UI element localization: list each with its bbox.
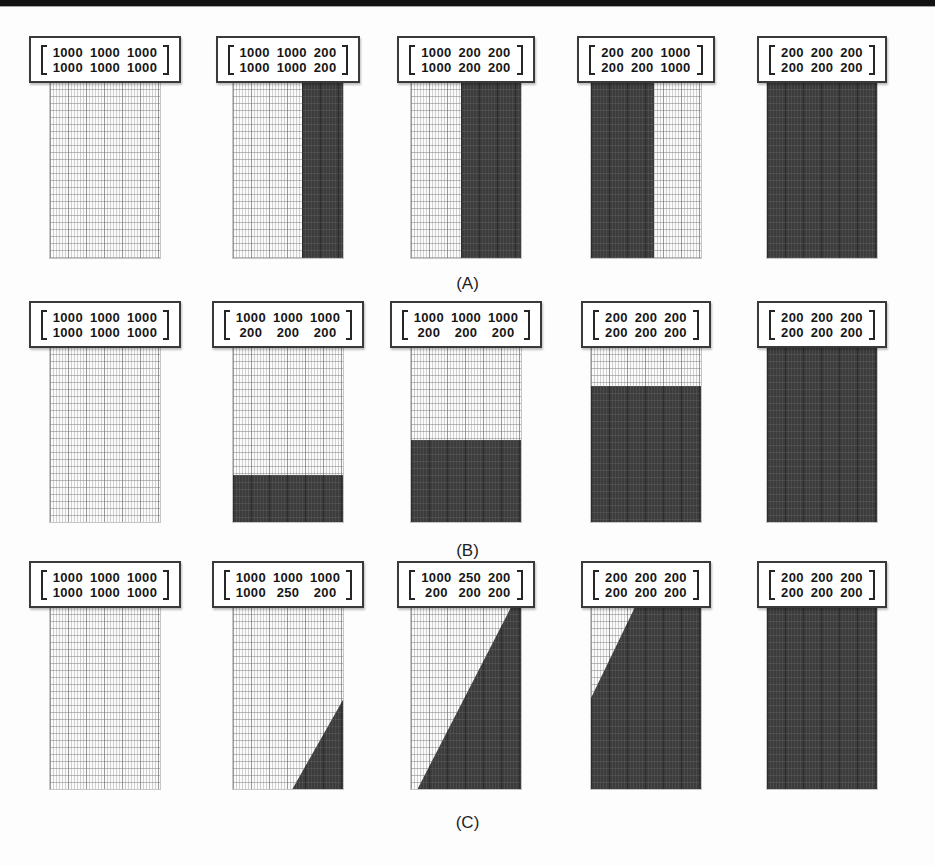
weight-matrix: 1000100010001000250200	[224, 570, 352, 600]
figure-panel: 100010001000100010001000	[20, 561, 190, 789]
matrix-values: 100010001000100010001000	[51, 45, 159, 75]
fabric-swatch	[233, 607, 343, 789]
bracket-right-icon	[697, 45, 703, 75]
matrix-cell: 200	[601, 45, 624, 60]
matrix-cell: 1000	[53, 45, 83, 60]
matrix-cell: 200	[811, 325, 834, 340]
matrix-values: 200200200200200200	[603, 310, 689, 340]
bracket-right-icon	[517, 45, 523, 75]
bracket-right-icon	[869, 45, 875, 75]
matrix-cell: 200	[635, 570, 658, 585]
bracket-left-icon	[409, 570, 415, 600]
matrix-cell: 200	[314, 45, 337, 60]
matrix-cell: 200	[458, 585, 481, 600]
matrix-cell: 200	[781, 45, 804, 60]
matrix-label-box: 200200200200200200	[581, 561, 711, 608]
matrix-cell: 250	[458, 570, 481, 585]
bracket-left-icon	[402, 310, 408, 340]
matrix-cell: 200	[811, 585, 834, 600]
bracket-left-icon	[589, 45, 595, 75]
matrix-label-box: 100010001000200200200	[390, 301, 542, 348]
bracket-left-icon	[224, 570, 230, 600]
dark-shade-region	[591, 82, 654, 258]
matrix-cell: 1000	[90, 310, 120, 325]
fabric-swatch	[767, 82, 877, 258]
figure-panel: 100010001000100010001000	[20, 301, 190, 522]
matrix-cell: 200	[488, 45, 511, 60]
matrix-cell: 1000	[127, 60, 157, 75]
matrix-label-box: 100010001000100010001000	[29, 561, 181, 608]
matrix-cell: 200	[840, 310, 863, 325]
matrix-cell: 200	[310, 325, 340, 340]
figure-panel: 1000250200200200200	[381, 561, 551, 789]
matrix-cell: 1000	[277, 60, 307, 75]
fabric-swatch	[591, 607, 701, 789]
matrix-cell: 1000	[421, 45, 451, 60]
matrix-cell: 200	[664, 310, 687, 325]
matrix-values: 20020010002002001000	[599, 45, 692, 75]
matrix-cell: 1000	[53, 60, 83, 75]
matrix-cell: 1000	[90, 325, 120, 340]
matrix-cell: 1000	[127, 585, 157, 600]
matrix-cell: 1000	[273, 310, 303, 325]
matrix-cell: 1000	[53, 585, 83, 600]
weight-matrix: 200200200200200200	[769, 570, 875, 600]
figure-panel: 200200200200200200	[561, 301, 731, 522]
matrix-cell: 200	[314, 60, 337, 75]
matrix-cell: 200	[488, 570, 511, 585]
matrix-cell: 1000	[127, 325, 157, 340]
matrix-cell: 1000	[451, 310, 481, 325]
weight-matrix: 100010001000200200200	[224, 310, 352, 340]
matrix-cell: 200	[310, 585, 340, 600]
matrix-cell: 200	[414, 325, 444, 340]
matrix-label-box: 100010001000100010001000	[29, 301, 181, 348]
bracket-right-icon	[524, 310, 530, 340]
matrix-values: 100010001000100010001000	[51, 310, 159, 340]
bracket-left-icon	[41, 45, 47, 75]
matrix-label-box: 20020010002002001000	[577, 36, 714, 83]
matrix-cell: 1000	[421, 570, 451, 585]
matrix-label-box: 1000250200200200200	[397, 561, 534, 608]
matrix-cell: 200	[840, 570, 863, 585]
figure-panel: 200200200200200200	[737, 561, 907, 789]
matrix-cell: 200	[840, 60, 863, 75]
matrix-cell: 200	[635, 310, 658, 325]
matrix-cell: 200	[631, 60, 654, 75]
bracket-left-icon	[228, 45, 234, 75]
figure-panel: 100010001000200200200	[381, 301, 551, 522]
matrix-cell: 1000	[53, 310, 83, 325]
matrix-cell: 200	[781, 310, 804, 325]
matrix-cell: 200	[605, 585, 628, 600]
matrix-cell: 200	[781, 325, 804, 340]
matrix-cell: 1000	[421, 60, 451, 75]
figure-panel: 100010001000100010001000	[20, 36, 190, 258]
matrix-label-box: 100010001000200200200	[212, 301, 364, 348]
figure-panel: 1000100010001000250200	[203, 561, 373, 789]
matrix-cell: 1000	[661, 45, 691, 60]
row-caption: (A)	[0, 274, 935, 294]
bracket-right-icon	[869, 310, 875, 340]
matrix-cell: 1000	[310, 310, 340, 325]
weight-matrix: 200200200200200200	[593, 570, 699, 600]
matrix-cell: 1000	[53, 325, 83, 340]
weight-matrix: 10002002001000200200	[409, 45, 522, 75]
matrix-values: 200200200200200200	[603, 570, 689, 600]
fabric-swatch	[233, 82, 343, 258]
fabric-swatch	[591, 82, 701, 258]
matrix-cell: 1000	[661, 60, 691, 75]
matrix-values: 1000250200200200200	[419, 570, 512, 600]
matrix-label-box: 200200200200200200	[757, 301, 887, 348]
matrix-label-box: 100010001000100010001000	[29, 36, 181, 83]
bracket-right-icon	[346, 310, 352, 340]
matrix-cell: 1000	[236, 310, 266, 325]
bracket-left-icon	[593, 310, 599, 340]
matrix-label-box: 200200200200200200	[581, 301, 711, 348]
matrix-values: 1000100010001000250200	[234, 570, 342, 600]
fabric-swatch	[411, 82, 521, 258]
dark-shade-region	[411, 607, 521, 789]
fabric-swatch	[50, 347, 160, 522]
matrix-cell: 200	[605, 310, 628, 325]
weight-matrix: 100010001000200200200	[402, 310, 530, 340]
matrix-cell: 200	[635, 325, 658, 340]
dark-shade-region	[591, 607, 701, 789]
